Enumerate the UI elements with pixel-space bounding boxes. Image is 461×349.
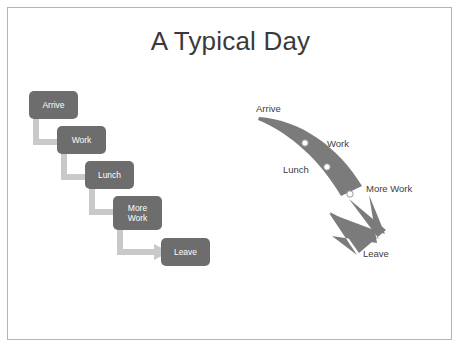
curved-arrow-graphic [0,0,461,349]
milestone-marker [347,191,353,197]
curve-label-lunch: Lunch [283,164,309,175]
curve-label-work: Work [327,138,349,149]
curve-diagram: Arrive Work Lunch More Work Leave [0,0,461,349]
milestone-marker [302,140,308,146]
milestone-marker [324,164,330,170]
slide-canvas: A Typical Day Arrive Work Lunch [0,0,461,349]
curve-label-arrive: Arrive [256,103,281,114]
curve-label-more-work: More Work [366,183,412,194]
curve-label-leave: Leave [363,248,389,259]
